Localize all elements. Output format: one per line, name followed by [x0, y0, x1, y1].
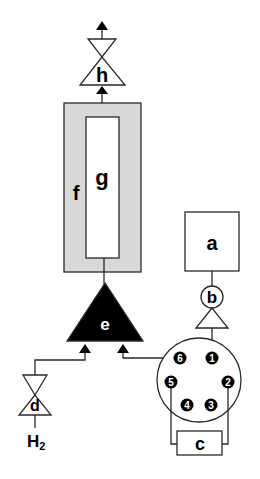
label-d: d	[30, 397, 40, 414]
inlet-arrow-right-icon	[117, 344, 129, 353]
gas-label-subscript: 2	[39, 440, 45, 452]
port-6-label: 6	[177, 353, 183, 364]
label-f: f	[73, 182, 80, 204]
label-h: h	[96, 64, 108, 86]
apparatus-diagram: 1 2 3 4 5 6 a b c d f g h e H2	[0, 0, 260, 479]
gas-label-main: H	[27, 432, 39, 451]
port-1-label: 1	[209, 353, 215, 364]
port-2-label: 2	[225, 377, 231, 388]
label-e: e	[100, 315, 109, 334]
label-a: a	[206, 232, 218, 254]
valve-h-top	[88, 39, 116, 57]
port-4-label: 4	[184, 400, 190, 411]
outlet-arrow-icon	[96, 21, 108, 30]
label-c: c	[195, 434, 205, 454]
inlet-arrow-left-icon	[79, 344, 91, 353]
valve-b-triangle	[196, 308, 228, 328]
port-5-label: 5	[168, 377, 174, 388]
label-g: g	[95, 165, 108, 190]
valve-d-top	[23, 375, 47, 395]
port-3-label: 3	[208, 400, 214, 411]
h2-line	[35, 353, 85, 375]
gas-label-h2: H2	[27, 432, 45, 452]
label-b: b	[207, 288, 217, 307]
arrow-to-h-icon	[96, 86, 108, 94]
